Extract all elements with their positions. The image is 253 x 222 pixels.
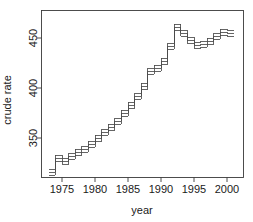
x-tick-label: 1995 (182, 183, 206, 195)
y-axis-title: crude rate (1, 75, 13, 125)
x-tick-label: 1985 (116, 183, 140, 195)
x-axis-title: year (131, 204, 153, 216)
crude-rate-step-chart: 197519801985199019952000 350400450 year … (0, 0, 253, 222)
x-tick-label: 1980 (83, 183, 107, 195)
y-tick-label: 450 (27, 29, 39, 47)
x-tick-label: 1975 (50, 183, 74, 195)
y-tick-label: 350 (27, 129, 39, 147)
y-axis-tick-labels: 350400450 (27, 29, 39, 147)
x-tick-label: 1990 (149, 183, 173, 195)
x-tick-label: 2000 (215, 183, 239, 195)
y-tick-label: 400 (27, 79, 39, 97)
chart-container: 197519801985199019952000 350400450 year … (0, 0, 253, 222)
